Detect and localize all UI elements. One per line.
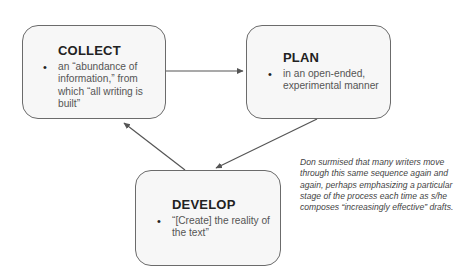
plan-node: PLAN in an open-ended, experimental mann…: [246, 25, 391, 119]
plan-bullets: in an open-ended, experimental manner: [283, 68, 383, 93]
arrow-develop-to-collect: [124, 123, 185, 170]
collect-title: COLLECT: [58, 43, 158, 58]
develop-bullet: “[Create] the reality of the text”: [172, 215, 276, 240]
annotation-note: Don surmised that many writers move thro…: [300, 157, 457, 213]
plan-bullet: in an open-ended, experimental manner: [283, 68, 383, 93]
plan-title: PLAN: [283, 50, 383, 65]
develop-title: DEVELOP: [172, 197, 276, 212]
collect-bullets: an “abundance of information,” from whic…: [58, 61, 158, 111]
develop-bullets: “[Create] the reality of the text”: [172, 215, 276, 240]
develop-node: DEVELOP “[Create] the reality of the tex…: [135, 170, 281, 266]
collect-node: COLLECT an “abundance of information,” f…: [22, 25, 166, 119]
collect-bullet: an “abundance of information,” from whic…: [58, 61, 158, 111]
